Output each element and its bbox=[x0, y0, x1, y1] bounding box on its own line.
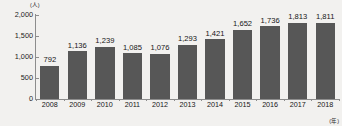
x-axis-tick-label: 2014 bbox=[201, 101, 229, 109]
y-axis-tick-label: 1,500 bbox=[15, 32, 33, 39]
x-axis-tick-mark bbox=[91, 99, 92, 101]
y-axis-tick-label: 500 bbox=[21, 74, 33, 81]
bar-value-label: 1,085 bbox=[123, 44, 142, 52]
bar-group: 1,736 bbox=[260, 0, 279, 99]
x-axis-tick-mark bbox=[119, 99, 120, 101]
bar bbox=[178, 45, 197, 99]
bar-group: 1,421 bbox=[205, 0, 224, 99]
bar-value-label: 1,813 bbox=[288, 13, 307, 21]
bar bbox=[68, 51, 87, 99]
bar bbox=[95, 47, 114, 99]
bar-value-label: 1,239 bbox=[95, 37, 114, 45]
x-axis-tick-label: 2012 bbox=[146, 101, 174, 109]
bar-group: 1,076 bbox=[150, 0, 169, 99]
bar bbox=[40, 66, 59, 99]
x-axis-tick-label: 2011 bbox=[119, 101, 147, 109]
bar bbox=[316, 23, 335, 99]
x-axis-tick-label: 2018 bbox=[311, 101, 339, 109]
x-axis-tick-label: 2016 bbox=[256, 101, 284, 109]
bar bbox=[123, 53, 142, 99]
bar-group: 792 bbox=[40, 0, 59, 99]
x-axis-tick-mark bbox=[284, 99, 285, 101]
bar-value-label: 1,736 bbox=[261, 17, 280, 25]
x-axis-tick-mark bbox=[64, 99, 65, 101]
bar-group: 1,652 bbox=[233, 0, 252, 99]
bar bbox=[150, 54, 169, 99]
bar-group: 1,293 bbox=[178, 0, 197, 99]
bar-chart: (人) (年) 05001,0001,5002,000 7921,1361,23… bbox=[0, 0, 342, 126]
bar-value-label: 1,811 bbox=[316, 13, 334, 21]
x-axis-tick-mark bbox=[229, 99, 230, 101]
x-axis-tick-mark bbox=[256, 99, 257, 101]
y-axis-tick-label: 0 bbox=[29, 95, 33, 102]
y-axis-tick-label: 2,000 bbox=[15, 11, 33, 18]
bar-value-label: 1,421 bbox=[206, 30, 225, 38]
bar-value-label: 1,293 bbox=[178, 35, 197, 43]
x-axis-tick-mark bbox=[311, 99, 312, 101]
bar-group: 1,811 bbox=[316, 0, 335, 99]
bar-group: 1,813 bbox=[288, 0, 307, 99]
bar-group: 1,085 bbox=[123, 0, 142, 99]
bar bbox=[205, 39, 224, 99]
x-axis-tick-label: 2010 bbox=[91, 101, 119, 109]
x-axis-tick-mark bbox=[174, 99, 175, 101]
bar bbox=[233, 30, 252, 99]
bar-group: 1,239 bbox=[95, 0, 114, 99]
x-axis-tick-mark bbox=[146, 99, 147, 101]
x-axis-tick-label: 2013 bbox=[174, 101, 202, 109]
x-axis-tick-mark bbox=[201, 99, 202, 101]
bar bbox=[288, 23, 307, 99]
x-axis-tick-label: 2015 bbox=[229, 101, 257, 109]
bar-value-label: 1,652 bbox=[233, 20, 252, 28]
bar-value-label: 1,136 bbox=[68, 42, 87, 50]
x-axis-tick-mark bbox=[36, 99, 37, 101]
x-axis-tick-label: 2008 bbox=[36, 101, 64, 109]
bar-group: 1,136 bbox=[68, 0, 87, 99]
x-axis-tick-mark bbox=[339, 99, 340, 101]
x-axis-tick-label: 2009 bbox=[64, 101, 92, 109]
bar-value-label: 792 bbox=[43, 56, 56, 64]
x-axis-tick-label: 2017 bbox=[284, 101, 312, 109]
bar-value-label: 1,076 bbox=[150, 44, 169, 52]
y-axis-tick-label: 1,000 bbox=[15, 53, 33, 60]
bar bbox=[260, 26, 279, 99]
